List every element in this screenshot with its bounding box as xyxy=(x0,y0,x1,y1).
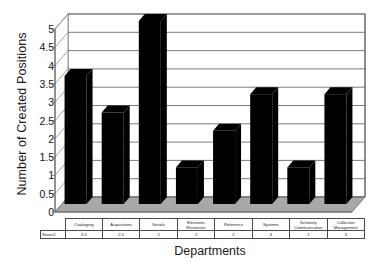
table-header-cell: Reference xyxy=(215,219,252,231)
table-header-cell: Systems xyxy=(252,219,289,231)
chart-data-table: CatalogingAcquisitionsSerialsElectronicR… xyxy=(40,218,365,239)
table-header-line2: Communication xyxy=(290,225,326,230)
table-corner-cell xyxy=(41,219,66,231)
table-header-line2: Management xyxy=(328,225,364,230)
bar xyxy=(176,160,204,204)
table-header-cell: Serials xyxy=(140,219,177,231)
bar xyxy=(65,69,93,204)
bar xyxy=(287,160,315,204)
table-header-line1: Acquisitions xyxy=(103,222,139,227)
table-header-cell: ElectronicResources xyxy=(177,219,214,231)
table-value-cell: 3 xyxy=(252,231,289,239)
bar xyxy=(324,87,352,204)
bar xyxy=(102,106,130,205)
table-header-line2: Resources xyxy=(178,225,214,230)
table-value-cell: 3.5 xyxy=(65,231,102,239)
table-row: Series1 3.52.5512313 xyxy=(41,231,365,239)
table-value-cell: 2.5 xyxy=(102,231,139,239)
bar xyxy=(139,14,167,204)
table-header-cell: ScholarlyCommunication xyxy=(290,219,327,231)
table-header-cell: Cataloging xyxy=(65,219,102,231)
series-label-cell: Series1 xyxy=(41,231,66,239)
x-axis-title: Departments xyxy=(55,244,365,258)
table-header-row: CatalogingAcquisitionsSerialsElectronicR… xyxy=(41,219,365,231)
table-value-cell: 5 xyxy=(140,231,177,239)
table-header-line1: Reference xyxy=(215,222,251,227)
bar xyxy=(250,87,278,204)
bar xyxy=(213,124,241,204)
table-value-cell: 1 xyxy=(290,231,327,239)
table-header-cell: Acquisitions xyxy=(102,219,139,231)
table-value-cell: 3 xyxy=(327,231,364,239)
table-header-cell: CollectionManagement xyxy=(327,219,364,231)
table-header-line1: Serials xyxy=(140,222,176,227)
table-value-cell: 2 xyxy=(215,231,252,239)
bar-chart: Number of Created Positions 54.543.532.5… xyxy=(0,0,379,265)
table-header-line1: Cataloging xyxy=(66,222,102,227)
table-header-line1: Systems xyxy=(253,222,289,227)
table-value-cell: 1 xyxy=(177,231,214,239)
